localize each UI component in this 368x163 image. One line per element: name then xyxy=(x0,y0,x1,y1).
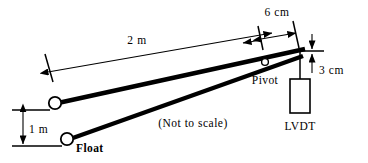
technical-diagram: 2 m 6 cm 3 cm xyxy=(0,0,368,163)
dimension-label-3cm: 3 cm xyxy=(319,64,344,76)
lvdt-group: LVDT xyxy=(284,52,315,132)
float-joint xyxy=(61,133,73,145)
dimension-label-2m: 2 m xyxy=(127,34,146,46)
diagram-canvas: 2 m 6 cm 3 cm xyxy=(0,0,368,163)
not-to-scale-note: (Not to scale) xyxy=(158,117,228,130)
extension-tick-left xyxy=(45,54,53,82)
lvdt-label: LVDT xyxy=(284,120,315,132)
float-label: Float xyxy=(76,142,104,154)
lvdt-body xyxy=(290,79,310,113)
extension-tick-6cm-left xyxy=(258,26,263,50)
dimension-lvdt-travel: 3 cm xyxy=(302,34,344,76)
dimension-label-6cm: 6 cm xyxy=(264,6,289,18)
dimension-pivot-offset: 6 cm xyxy=(243,6,299,50)
dimension-float-rise: 1 m xyxy=(12,110,62,146)
dimension-line-2m xyxy=(48,33,272,72)
dimension-lever-length: 2 m xyxy=(45,33,272,82)
pivot-label: Pivot xyxy=(252,74,279,86)
upper-float-joint xyxy=(49,97,61,109)
dimension-label-1m: 1 m xyxy=(29,123,48,135)
pivot-point xyxy=(262,59,269,66)
extension-tick-6cm-right xyxy=(293,21,299,48)
dimension-line-6cm-outer-left xyxy=(243,40,261,43)
